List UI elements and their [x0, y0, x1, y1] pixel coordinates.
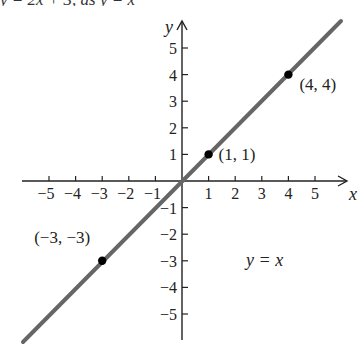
x-tick-label: −4	[64, 185, 81, 202]
y-tick-label: −2	[160, 226, 177, 243]
x-tick-label: 2	[231, 185, 239, 202]
x-tick-label: −2	[117, 185, 134, 202]
y-axis-label: y	[163, 17, 173, 37]
y-tick-label: −4	[160, 279, 177, 296]
y-tick-label: 4	[169, 67, 177, 84]
y-tick-label: −5	[160, 306, 177, 323]
x-tick-label: −1	[144, 185, 161, 202]
x-tick-label: 4	[284, 185, 292, 202]
equation-label: y = x	[244, 250, 283, 270]
point-label: (−3, −3)	[34, 228, 90, 247]
y-tick-label: 1	[169, 146, 177, 163]
x-axis-label: x	[348, 184, 357, 204]
y-tick-label: 3	[169, 93, 177, 110]
chart: −5−4−3−2−112345−5−4−3−2−112345xy(1, 1)(4…	[0, 0, 362, 352]
data-point	[98, 257, 106, 265]
x-tick-label: −3	[91, 185, 108, 202]
y-tick-label: −1	[160, 200, 177, 217]
y-tick-label: −3	[160, 253, 177, 270]
y-tick-label: 5	[169, 40, 177, 57]
x-tick-label: 1	[205, 185, 213, 202]
point-label: (4, 4)	[299, 75, 336, 94]
point-label: (1, 1)	[219, 145, 256, 164]
x-tick-label: 5	[311, 185, 319, 202]
x-tick-label: −5	[37, 185, 54, 202]
y-tick-label: 2	[169, 120, 177, 137]
x-tick-label: 3	[258, 185, 266, 202]
data-point	[204, 150, 212, 158]
data-point	[284, 70, 292, 78]
